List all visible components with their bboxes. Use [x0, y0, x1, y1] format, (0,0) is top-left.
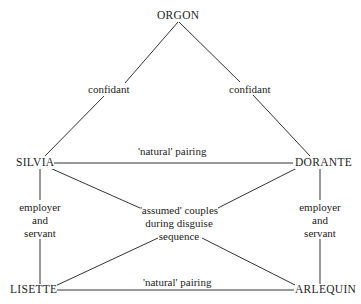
label-line: employer — [10, 201, 70, 214]
node-silvia: SILVIA — [16, 157, 54, 169]
edge-orgon-dorante-lower — [253, 95, 310, 156]
label-line: and — [290, 214, 350, 227]
label-employer-servant-right: employer and servant — [290, 201, 350, 240]
edge-orgon-silvia-lower — [45, 96, 104, 156]
edge-arlequin-assumed — [202, 238, 297, 286]
label-assumed-couples: 'assumed' couples during disguise sequen… — [129, 204, 229, 243]
edge-dorante-assumed — [218, 168, 297, 208]
edge-orgon-silvia-upper — [125, 22, 178, 83]
label-natural-pairing-top: 'natural' pairing — [138, 145, 206, 158]
label-line: and — [10, 214, 70, 227]
label-line: servant — [10, 227, 70, 240]
node-arlequin: ARLEQUIN — [295, 284, 356, 296]
label-line: during disguise — [129, 217, 229, 230]
node-orgon: ORGON — [157, 10, 199, 22]
node-lisette: LISETTE — [10, 284, 57, 296]
node-dorante: DORANTE — [295, 157, 352, 169]
label-natural-pairing-bottom: 'natural' pairing — [143, 276, 211, 289]
label-line: 'assumed' couples — [129, 204, 229, 217]
character-relationship-diagram: ORGON SILVIA DORANTE LISETTE ARLEQUIN co… — [0, 0, 361, 304]
label-confidant-right: confidant — [229, 83, 271, 96]
label-employer-servant-left: employer and servant — [10, 201, 70, 240]
label-line: employer — [290, 201, 350, 214]
edge-orgon-dorante-upper — [179, 22, 240, 82]
label-line: servant — [290, 227, 350, 240]
label-line: sequence — [129, 230, 229, 243]
label-confidant-left: confidant — [88, 83, 130, 96]
